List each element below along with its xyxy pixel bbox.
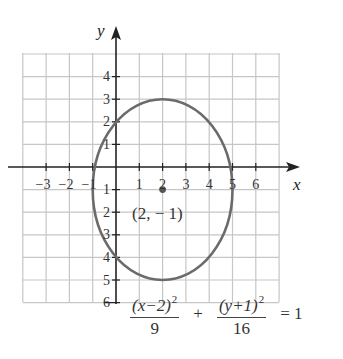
y-axis-label: y <box>95 21 105 40</box>
svg-text:−1: −1 <box>82 177 97 192</box>
svg-text:1: 1 <box>136 177 143 192</box>
svg-text:3: 3 <box>182 177 189 192</box>
term2-denominator: 16 <box>233 320 250 338</box>
equals-one: = 1 <box>280 304 302 324</box>
svg-text:5: 5 <box>229 177 236 192</box>
svg-text:4: 4 <box>206 177 213 192</box>
term2-fraction: (y+1)2 16 <box>217 290 266 338</box>
x-axis-label: x <box>292 175 301 194</box>
svg-text:6: 6 <box>252 177 259 192</box>
svg-text:1: 1 <box>103 182 110 197</box>
svg-text:4: 4 <box>103 250 110 265</box>
svg-text:1: 1 <box>103 137 110 152</box>
term2-exponent: 2 <box>259 293 265 305</box>
term1-numerator: (x−2) <box>132 296 171 315</box>
plus-sign: + <box>193 304 203 324</box>
svg-text:2: 2 <box>159 177 166 192</box>
term1-denominator: 9 <box>150 320 159 338</box>
term2-numerator: (y+1) <box>219 296 258 315</box>
svg-text:2: 2 <box>103 114 110 129</box>
svg-text:−3: −3 <box>36 177 51 192</box>
svg-text:4: 4 <box>103 69 110 84</box>
svg-text:2: 2 <box>103 205 110 220</box>
ellipse-equation: (x−2)2 9 + (y+1)2 16 = 1 <box>128 284 303 344</box>
svg-text:6: 6 <box>103 295 110 310</box>
svg-text:5: 5 <box>103 273 110 288</box>
fraction-bar <box>217 317 266 318</box>
svg-text:−2: −2 <box>59 177 74 192</box>
center-point-label: (2, − 1) <box>132 204 183 223</box>
svg-text:3: 3 <box>103 92 110 107</box>
term1-fraction: (x−2)2 9 <box>130 290 179 338</box>
y-tick-labels-positive: 1 2 3 4 <box>103 69 110 152</box>
svg-text:3: 3 <box>103 227 110 242</box>
term1-exponent: 2 <box>172 293 178 305</box>
fraction-bar <box>130 317 179 318</box>
